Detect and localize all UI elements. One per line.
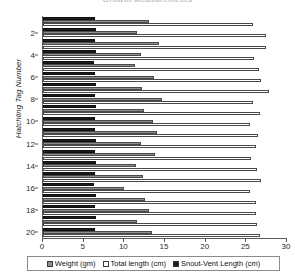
- bar-total: [43, 79, 261, 82]
- legend-item-total[interactable]: Total length (cm): [103, 259, 166, 268]
- bar-group: [43, 205, 287, 216]
- legend-item-snout[interactable]: Snout-Vent Length (cm): [173, 259, 260, 268]
- bar-total: [43, 23, 253, 26]
- y-tick-mark: [35, 143, 38, 144]
- bar-total: [43, 212, 256, 215]
- y-tick-label: 12: [26, 139, 35, 148]
- y-tick-label: 4: [31, 50, 35, 59]
- total-length-swatch: [103, 261, 109, 267]
- chart-legend: Weight (gm)Total length (cm)Snout-Vent L…: [27, 256, 280, 271]
- bar-chart: Growth Measurements Hatchling Tag Number…: [0, 0, 295, 280]
- y-tick-label: 14: [26, 161, 35, 170]
- x-tick-label: 20: [200, 242, 209, 251]
- y-tick-label: 16: [26, 184, 35, 193]
- legend-item-label: Total length (cm): [111, 259, 166, 268]
- page-title: Growth Measurements: [0, 0, 295, 4]
- y-tick-mark: [35, 188, 38, 189]
- y-tick-label: 2: [31, 28, 35, 37]
- bar-total: [43, 57, 254, 60]
- y-axis-ticks: 2468101214161820: [14, 16, 38, 238]
- bar-group: [43, 105, 287, 116]
- bar-group: [43, 116, 287, 127]
- x-tick-label: 15: [160, 242, 169, 251]
- bar-total: [43, 157, 251, 160]
- bar-total: [43, 134, 258, 137]
- y-tick-mark: [35, 32, 38, 33]
- bar-group: [43, 60, 287, 71]
- y-tick-mark: [35, 121, 38, 122]
- bar-total: [43, 179, 261, 182]
- bar-group: [43, 149, 287, 160]
- x-axis-ticks: 051015202530: [42, 239, 286, 251]
- x-tick-label: 5: [80, 242, 84, 251]
- y-tick-mark: [35, 232, 38, 233]
- bar-group: [43, 94, 287, 105]
- snout-vent-swatch: [173, 261, 179, 267]
- bar-total: [43, 190, 250, 193]
- y-tick-mark: [35, 54, 38, 55]
- bar-group: [43, 183, 287, 194]
- y-tick-label: 20: [26, 228, 35, 237]
- bar-total: [43, 68, 259, 71]
- bar-total: [43, 123, 250, 126]
- y-tick-label: 10: [26, 117, 35, 126]
- bar-total: [43, 101, 253, 104]
- bar-group: [43, 72, 287, 83]
- y-tick-mark: [35, 99, 38, 100]
- bar-total: [43, 112, 260, 115]
- x-tick-label: 0: [40, 242, 44, 251]
- y-tick-label: 18: [26, 206, 35, 215]
- bar-group: [43, 27, 287, 38]
- bar-total: [43, 34, 266, 37]
- y-tick-label: 8: [31, 95, 35, 104]
- y-tick-label: 6: [31, 73, 35, 82]
- bar-group: [43, 171, 287, 182]
- x-tick-label: 25: [241, 242, 250, 251]
- x-tick-label: 10: [119, 242, 128, 251]
- bar-total: [43, 223, 257, 226]
- bar-group: [43, 38, 287, 49]
- bar-group: [43, 83, 287, 94]
- bar-total: [43, 168, 257, 171]
- bar-total: [43, 46, 266, 49]
- y-tick-mark: [35, 165, 38, 166]
- bar-total: [43, 201, 256, 204]
- y-tick-mark: [35, 210, 38, 211]
- bar-group: [43, 160, 287, 171]
- bar-group: [43, 227, 287, 238]
- weight-swatch: [47, 261, 53, 267]
- bar-group: [43, 127, 287, 138]
- legend-item-weight[interactable]: Weight (gm): [47, 259, 96, 268]
- bar-group: [43, 194, 287, 205]
- x-tick-label: 30: [282, 242, 291, 251]
- bar-group: [43, 16, 287, 27]
- bar-total: [43, 145, 256, 148]
- legend-item-label: Weight (gm): [55, 259, 96, 268]
- bar-group: [43, 138, 287, 149]
- plot-area: [42, 16, 287, 239]
- bar-group: [43, 216, 287, 227]
- bar-total: [43, 90, 269, 93]
- legend-item-label: Snout-Vent Length (cm): [181, 259, 260, 268]
- bar-group: [43, 49, 287, 60]
- y-tick-mark: [35, 77, 38, 78]
- bar-total: [43, 234, 260, 237]
